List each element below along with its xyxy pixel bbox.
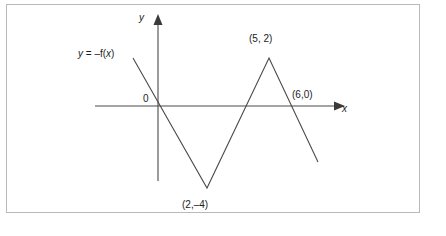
point-label-x-intercept: (6,0) [292, 89, 313, 100]
function-equation-label: y = –f(x) [78, 48, 114, 59]
y-axis-label: y [139, 12, 144, 23]
x-axis-label: x [342, 103, 347, 114]
y-axis-arrow-icon [154, 14, 163, 25]
figure-container: y x 0 y = –f(x) (5, 2) (6,0) (2,–4) [0, 0, 446, 236]
function-label-operator: = –f( [83, 48, 106, 59]
point-label-vertex: (2,–4) [182, 199, 208, 210]
function-graph-line [133, 58, 318, 188]
graph-plot-svg [0, 0, 446, 236]
function-label-paren: ) [111, 48, 114, 59]
origin-label: 0 [143, 93, 149, 104]
point-label-peak: (5, 2) [249, 33, 272, 44]
